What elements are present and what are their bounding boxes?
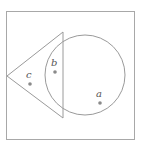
venn-diagram: a b c [0, 0, 141, 147]
triangle-shape [7, 32, 63, 118]
point-b: b [51, 57, 57, 74]
point-a: a [96, 88, 102, 105]
point-a-dot [98, 101, 102, 105]
point-b-label: b [51, 57, 57, 68]
point-c: c [26, 69, 32, 86]
point-a-label: a [96, 88, 102, 99]
point-c-dot [28, 82, 32, 86]
point-b-dot [53, 70, 57, 74]
circle-shape [45, 35, 125, 115]
point-c-label: c [26, 69, 32, 80]
